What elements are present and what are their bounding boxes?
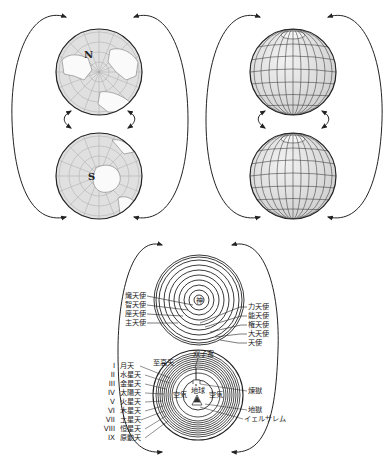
seraphim-label: 熾天使 xyxy=(125,291,146,300)
inner-arc-left xyxy=(258,111,265,128)
numeral-7: VII xyxy=(106,415,115,424)
celestial-spheres xyxy=(153,350,243,440)
dante-cosmos-panel: 神 熾天使 智天使 座天使 主天使 力天使 能天使 権天使 大天使 天使 xyxy=(104,244,286,452)
venus-heaven-label: 金星天 xyxy=(120,379,141,388)
air-right-label: 空気 xyxy=(209,390,223,399)
numeral-8: VIII xyxy=(104,424,115,433)
lower-gridded-sphere xyxy=(250,133,336,219)
inner-arc-right xyxy=(128,111,135,128)
numeral-4: IV xyxy=(108,388,115,397)
moon-heaven-label: 月天 xyxy=(120,361,134,370)
saturn-heaven-label: 土星天 xyxy=(120,415,141,424)
air-left-label: 空気 xyxy=(173,390,187,399)
numeral-1: I xyxy=(113,361,115,370)
north-pole-label: N xyxy=(84,49,93,60)
principalities-label: 権天使 xyxy=(248,320,269,329)
sun-heaven-label: 太陽天 xyxy=(120,388,141,397)
thrones-label: 座天使 xyxy=(125,309,146,318)
purgatory-label: 煉獄 xyxy=(248,386,262,395)
hell-label: 地獄 xyxy=(248,405,262,414)
north-hemisphere: N xyxy=(56,29,142,115)
virtues-label: 力天使 xyxy=(248,302,269,311)
fixed-stars-heaven-label: 恒星天 xyxy=(120,424,141,433)
mercury-heaven-label: 水星天 xyxy=(120,370,141,379)
earth-label: 地球 xyxy=(191,386,205,395)
dominions-label: 主天使 xyxy=(125,318,146,327)
archangels-label: 大天使 xyxy=(248,329,269,338)
god-label: 神 xyxy=(196,296,203,305)
primum-mobile-label: 原動天 xyxy=(120,433,141,442)
jupiter-heaven-label: 木星天 xyxy=(120,406,141,415)
south-pole-label: S xyxy=(88,171,95,182)
upper-gridded-sphere xyxy=(250,29,336,115)
right-outer-arc xyxy=(134,15,188,218)
earth-poles-panel: N S xyxy=(12,15,188,219)
diagram-canvas: N S xyxy=(0,0,392,467)
numeral-9: IX xyxy=(108,433,115,442)
angels-label: 天使 xyxy=(248,338,262,347)
numeral-5: V xyxy=(110,397,115,406)
inner-arc-right xyxy=(322,111,329,128)
mars-heaven-label: 火星天 xyxy=(120,397,141,406)
numeral-3: III xyxy=(109,379,115,388)
south-hemisphere: S xyxy=(56,133,142,219)
globes-panel xyxy=(206,15,382,219)
right-outer-arc xyxy=(328,15,382,218)
numeral-6: VI xyxy=(108,406,115,415)
numeral-2: II xyxy=(111,370,115,379)
inner-arc-left xyxy=(64,111,71,128)
heaven-left-labels: I 月天 II 水星天 III 金星天 IV 太陽天 V 火星天 VI 木星天 … xyxy=(104,361,170,442)
cherubim-label: 智天使 xyxy=(125,300,146,309)
jerusalem-label: イェルサレム xyxy=(244,414,286,423)
powers-label: 能天使 xyxy=(248,311,269,320)
